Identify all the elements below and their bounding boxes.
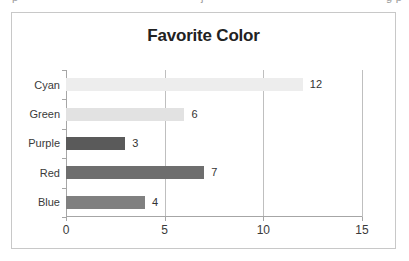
clipped-text-fragments: p j g p <box>12 0 402 3</box>
chart-frame: Favorite Color CyanGreenPurpleRedBlue 12… <box>11 12 396 249</box>
x-axis-tick-5 <box>165 217 166 221</box>
bar-series: 126374 <box>66 70 362 217</box>
bar-green[interactable] <box>66 108 184 121</box>
bar-value-label-red: 7 <box>211 167 217 178</box>
y-axis-label-blue: Blue <box>38 188 60 217</box>
y-axis-label-green: Green <box>29 99 60 128</box>
bar-row: 12 <box>66 70 362 99</box>
x-axis-label-0: 0 <box>63 223 70 237</box>
x-axis-tick-0 <box>66 217 67 221</box>
bar-cyan[interactable] <box>66 78 303 91</box>
bar-value-label-blue: 4 <box>152 197 158 208</box>
bar-blue[interactable] <box>66 196 145 209</box>
bar-row: 7 <box>66 158 362 187</box>
x-axis-ticks <box>66 217 362 222</box>
x-axis-tick-10 <box>263 217 264 221</box>
x-axis-label-5: 5 <box>161 223 168 237</box>
y-axis-category-labels: CyanGreenPurpleRedBlue <box>14 70 60 217</box>
clipped-text-above-chart: p j g p <box>0 0 409 12</box>
x-axis-tick-15 <box>362 217 363 221</box>
y-axis-label-red: Red <box>40 158 60 187</box>
bar-value-label-cyan: 12 <box>310 79 322 90</box>
bar-row: 6 <box>66 99 362 128</box>
bar-purple[interactable] <box>66 137 125 150</box>
bar-value-label-green: 6 <box>191 109 197 120</box>
y-axis-label-cyan: Cyan <box>34 70 60 99</box>
bar-value-label-purple: 3 <box>132 138 138 149</box>
clipped-fragment-right: g p <box>386 0 402 3</box>
y-axis-label-purple: Purple <box>28 129 60 158</box>
gridline-15 <box>362 70 363 217</box>
bar-red[interactable] <box>66 166 204 179</box>
x-axis-tick-labels: 051015 <box>66 223 362 239</box>
chart-title: Favorite Color <box>12 26 395 46</box>
plot-area: CyanGreenPurpleRedBlue 126374 051015 <box>66 70 362 217</box>
clipped-fragment-left: p <box>12 0 18 3</box>
bar-row: 3 <box>66 129 362 158</box>
clipped-fragment-mid: j <box>201 0 204 3</box>
bar-row: 4 <box>66 188 362 217</box>
x-axis-label-10: 10 <box>257 223 270 237</box>
x-axis-label-15: 15 <box>355 223 368 237</box>
